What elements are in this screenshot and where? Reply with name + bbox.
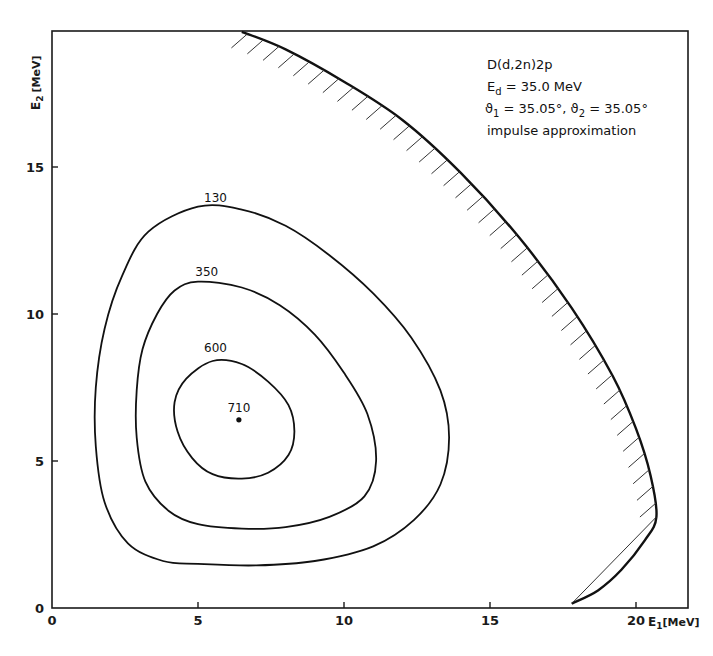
maximum-label: 710 <box>227 401 250 415</box>
hatch-mark <box>479 209 495 223</box>
hatch-mark <box>542 288 558 302</box>
hatch-mark <box>532 275 548 289</box>
x-tick-label: 5 <box>193 613 202 628</box>
hatch-mark <box>308 70 324 84</box>
hatch-mark <box>588 360 604 374</box>
y-axis-label-sub: 2 <box>35 96 45 102</box>
y-tick-label: 0 <box>35 601 44 616</box>
reaction-label: D(d,2n)2p <box>487 57 553 72</box>
hatch-mark <box>380 115 396 129</box>
hatch-mark <box>247 40 263 54</box>
x-axis-label: E1[MeV] <box>648 615 699 631</box>
contour-label-600: 600 <box>204 341 227 355</box>
hatch-mark <box>431 160 447 174</box>
hatch-mark <box>617 421 633 435</box>
hatch-mark <box>490 222 506 236</box>
contour-plot: 05101520 051015 E1[MeV] E2[MeV] 13035060… <box>0 0 713 656</box>
x-axis-label-main: E <box>648 615 656 629</box>
contour-lines: 130350600710 <box>95 191 449 565</box>
y-axis-ticks: 051015 <box>26 160 58 616</box>
hatch-mark <box>596 375 612 389</box>
hatch-mark <box>571 331 587 345</box>
y-axis-label-unit: [MeV] <box>30 56 43 93</box>
hatch-mark <box>552 302 568 316</box>
hatch-mark <box>640 503 656 517</box>
hatch-mark <box>366 105 382 119</box>
hatch-mark <box>419 148 435 162</box>
hatch-mark <box>511 248 527 262</box>
hatch-mark <box>561 317 577 331</box>
plot-frame <box>52 31 688 608</box>
y-tick-label: 5 <box>35 454 44 469</box>
hatch-mark <box>604 390 620 404</box>
hatch-mark <box>278 54 294 68</box>
x-tick-label: 0 <box>47 613 56 628</box>
hatch-mark <box>501 235 517 249</box>
hatch-mark <box>337 87 353 101</box>
boundary-chord <box>572 517 657 604</box>
hatch-mark <box>323 79 339 93</box>
contour-600 <box>174 360 294 479</box>
hatch-mark <box>394 126 410 140</box>
hatch-mark <box>629 453 645 467</box>
y-tick-label: 10 <box>26 307 44 322</box>
hatch-mark <box>455 184 471 198</box>
x-tick-label: 10 <box>335 613 353 628</box>
hatch-mark <box>293 62 309 76</box>
hatch-mark <box>611 406 627 420</box>
method-label: impulse approximation <box>487 123 636 138</box>
hatch-mark <box>633 470 649 484</box>
angles-label: ϑ1 = 35.05°, ϑ2 = 35.05° <box>485 101 648 119</box>
y-axis-label-main: E <box>29 102 43 110</box>
hatch-mark <box>637 486 653 500</box>
angle1-value: = 35.05°, <box>499 101 570 116</box>
hatch-mark <box>407 137 423 151</box>
contour-label-130: 130 <box>204 191 227 205</box>
angle2-value: = 35.05° <box>585 101 648 116</box>
hatch-mark <box>522 261 538 275</box>
hatch-mark <box>263 46 279 60</box>
contour-350 <box>136 282 376 529</box>
maximum-point <box>236 417 241 422</box>
x-tick-label: 20 <box>627 613 645 628</box>
hatch-mark <box>467 196 483 210</box>
hatch-mark <box>444 172 460 186</box>
y-tick-label: 15 <box>26 160 44 175</box>
annotation-block: D(d,2n)2p Ed = 35.0 MeV ϑ1 = 35.05°, ϑ2 … <box>485 57 648 138</box>
x-axis-ticks: 05101520 <box>47 602 645 628</box>
kinematic-boundary-curve <box>242 32 657 604</box>
contour-label-350: 350 <box>195 265 218 279</box>
x-axis-label-unit: [MeV] <box>662 616 699 629</box>
y-axis-label: E2[MeV] <box>29 56 45 110</box>
beam-energy-value: = 35.0 MeV <box>502 79 582 94</box>
x-tick-label: 15 <box>481 613 499 628</box>
hatch-mark <box>579 345 595 359</box>
angle1-symbol: ϑ <box>485 101 493 116</box>
beam-energy-main: E <box>487 79 495 94</box>
angle2-symbol: ϑ <box>571 101 579 116</box>
hatch-mark <box>352 96 368 110</box>
hatch-mark <box>623 437 639 451</box>
beam-energy-label: Ed = 35.0 MeV <box>487 79 582 97</box>
kinematic-boundary <box>231 32 656 604</box>
hatch-mark <box>231 34 247 48</box>
